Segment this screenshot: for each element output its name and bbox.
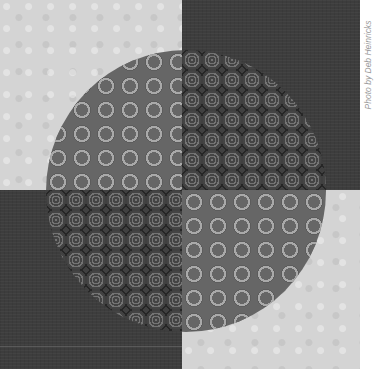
seam-line: [0, 346, 182, 347]
photo-credit-text: Photo by Deb Heinricks: [363, 21, 373, 110]
circle-quadrant-bottom-left-swirl: [46, 190, 182, 332]
photo-credit: Photo by Deb Heinricks: [362, 10, 374, 120]
circle-quadrant-bottom-right-leaf: [182, 190, 326, 332]
circle-quadrant-top-left-leaf: [46, 50, 182, 190]
circle-quadrant-top-right-swirl: [182, 50, 326, 190]
pieced-circle: [46, 50, 326, 332]
quilt-block: [0, 0, 360, 369]
